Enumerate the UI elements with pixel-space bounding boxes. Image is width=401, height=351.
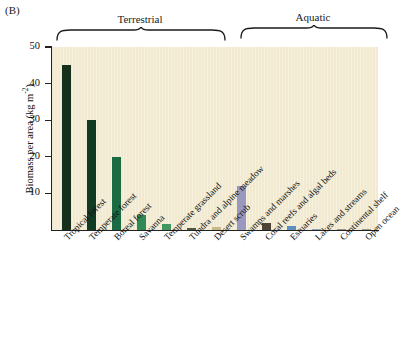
- y-axis-tick-label: 50: [0, 40, 40, 51]
- y-axis-tick-label: 10: [0, 186, 40, 197]
- bracket-terrestrial-icon: [56, 27, 226, 41]
- bar: [112, 157, 121, 230]
- x-axis-line: [51, 230, 379, 231]
- y-axis-tick: [45, 156, 52, 157]
- bar: [237, 186, 246, 230]
- y-axis-line: [51, 46, 52, 231]
- y-axis-title-text: Biomass per area (kg m: [24, 94, 35, 194]
- bar: [137, 215, 146, 230]
- y-axis-tick-label: 20: [0, 150, 40, 161]
- y-axis-title-exponent: -2: [21, 88, 30, 94]
- y-axis-tick-label: 40: [0, 77, 40, 88]
- bracket-aquatic-icon: [240, 25, 388, 39]
- bar: [62, 65, 71, 230]
- bar: [87, 120, 96, 230]
- plot-area: [52, 47, 378, 230]
- y-axis-tick: [45, 83, 52, 84]
- y-axis-tick: [45, 46, 52, 47]
- plot-texture: [52, 47, 378, 230]
- group-label-aquatic: Aquatic: [243, 11, 383, 23]
- y-axis-tick: [45, 193, 52, 194]
- y-axis-tick: [45, 120, 52, 121]
- panel-label: (B): [5, 4, 20, 16]
- group-label-terrestrial: Terrestrial: [60, 13, 220, 25]
- bar: [262, 223, 271, 230]
- y-axis-tick-label: 30: [0, 113, 40, 124]
